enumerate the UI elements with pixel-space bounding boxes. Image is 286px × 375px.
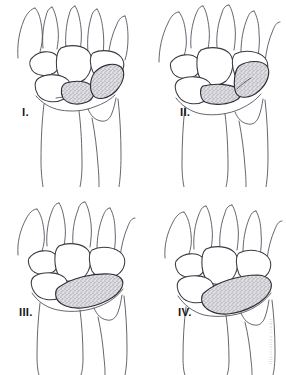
panel-iv <box>143 188 286 375</box>
panel-i <box>0 0 143 187</box>
panel-label-iv: IV. <box>178 306 192 318</box>
panel-label-i: I. <box>22 106 29 118</box>
panel-label-iii: III. <box>19 306 33 318</box>
carpal-illustration-figure: I. II. III. IV. illustration credit <box>0 0 286 375</box>
forearm-bones <box>36 95 121 187</box>
artist-signature: illustration credit <box>268 312 282 364</box>
panel-iii <box>0 188 143 375</box>
panel-ii <box>143 0 286 187</box>
panel-label-ii: II. <box>180 106 190 118</box>
